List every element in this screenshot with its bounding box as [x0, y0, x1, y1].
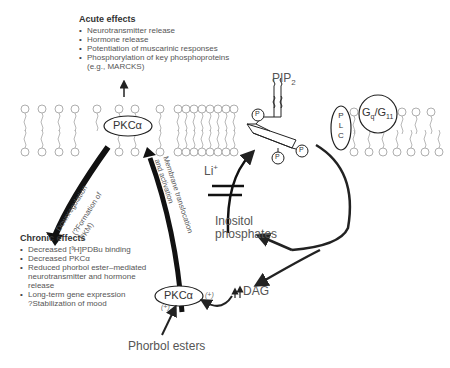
chronic-effect-item-cont: neurotransmitter and hormone — [19, 272, 146, 281]
chronic-effect-item: Reduced phorbol ester–mediated — [19, 263, 146, 272]
acute-effect-item: Phosphorylation of key phosphoproteins — [78, 53, 229, 62]
membrane-middle — [174, 105, 238, 156]
acute-effect-item: Potentiation of muscarinic responses — [78, 44, 229, 53]
chronic-effect-item: Long-term gene expression — [19, 290, 146, 299]
chronic-effect-item-cont: release — [19, 281, 146, 290]
phorbol-ester-arrow — [162, 310, 174, 335]
plus-sign-left: (+) — [161, 303, 170, 310]
acute-effect-item-cont: (e.g., MARCKS) — [78, 62, 229, 71]
phosphate-label-1: P — [255, 110, 260, 117]
acute-effect-item: Neurotransmitter release — [78, 26, 229, 35]
chronic-effect-item-cont: ?Stabilization of mood — [19, 299, 146, 308]
gq-g11-label: Gq/G11 — [362, 106, 393, 120]
pkc-membrane-label: PKCα — [113, 119, 142, 131]
acute-effects-list: Neurotransmitter release Hormone release… — [78, 26, 229, 71]
pkc-lithium-signaling-diagram: Acute effects Neurotransmitter release H… — [0, 0, 450, 368]
phorbol-esters-label: Phorbol esters — [128, 339, 205, 353]
pkc-cytosol-label: PKCα — [164, 289, 193, 301]
phosphate-label-2: P — [275, 153, 280, 160]
plus-sign-right: (+) — [205, 291, 214, 298]
phosphate-label-3: P — [299, 146, 304, 153]
lithium-label: Li+ — [204, 163, 218, 178]
acute-effect-item: Hormone release — [78, 35, 229, 44]
inositol-phosphates-label: Inositol phosphates — [215, 215, 277, 241]
plc-hydrolysis-arc — [292, 145, 350, 250]
dag-production-arrow — [260, 250, 320, 283]
plc-label: P L C — [338, 111, 344, 141]
pip2-label: PIP2 — [272, 71, 296, 87]
acute-effects-title: Acute effects — [79, 14, 136, 24]
chronic-effect-item: Decreased [³H]PDBu binding — [19, 245, 146, 254]
chronic-effect-item: Decreased PKCα — [19, 254, 146, 263]
dag-label: DAG — [243, 284, 269, 298]
chronic-effects-list: Decreased [³H]PDBu binding Decreased PKC… — [19, 245, 146, 308]
